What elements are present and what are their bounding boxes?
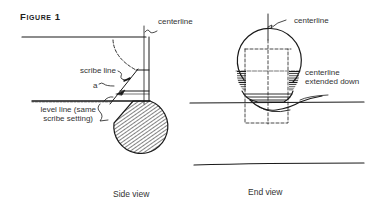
centerline-extended-label-1: centerline [305, 68, 340, 77]
scribe-line-label: scribe line [70, 66, 116, 75]
end-view-drawing [190, 14, 364, 165]
side-view-caption: Side view [113, 189, 149, 199]
centerline-extended-label-2: extended down [305, 77, 359, 86]
end-centerline-label: centerline [294, 16, 329, 25]
end-view-caption: End view [248, 187, 283, 197]
level-line-label-2: scribe setting) [30, 114, 93, 123]
a-label: a [93, 81, 97, 90]
side-centerline-label: centerline [158, 17, 193, 26]
level-line-label-1: level line (same [30, 105, 96, 114]
